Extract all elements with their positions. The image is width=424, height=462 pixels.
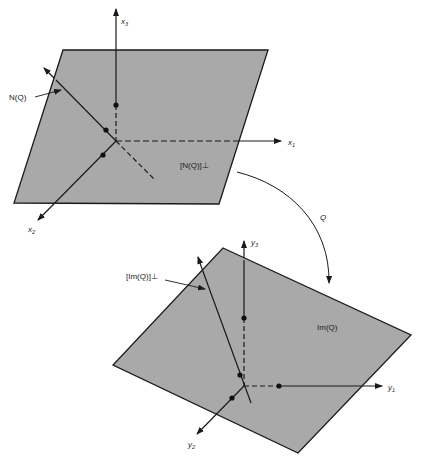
basis-point-null <box>103 127 108 132</box>
domain-space: N(Q) [N(Q)]⊥ x1 x2 x3 <box>9 9 295 235</box>
image-perp-line-outer <box>198 257 201 266</box>
linear-map-diagram: N(Q) [N(Q)]⊥ x1 x2 x3 Q [Im(Q)]⊥ Im(Q <box>0 0 424 462</box>
basis-point-perp <box>237 372 242 377</box>
y1-label: y1 <box>387 383 395 393</box>
orthogonal-complement-plane <box>14 50 268 204</box>
null-space-label: N(Q) <box>9 93 27 102</box>
image-perp-label: [Im(Q)]⊥ <box>126 272 158 281</box>
y2-label: y2 <box>187 440 195 450</box>
x3-label: x3 <box>120 17 129 27</box>
x1-label: x1 <box>287 138 295 148</box>
basis-point-y3 <box>241 315 246 320</box>
codomain-space: [Im(Q)]⊥ Im(Q) y1 y2 y3 <box>113 238 411 453</box>
image-plane-label: Im(Q) <box>317 323 338 332</box>
basis-point-y2 <box>229 395 234 400</box>
basis-point-x2 <box>100 152 105 157</box>
x2-label: x2 <box>27 225 35 235</box>
y3-label: y3 <box>250 238 259 248</box>
mapping-label: Q <box>320 213 326 222</box>
orthogonal-complement-label: [N(Q)]⊥ <box>180 161 209 170</box>
basis-point-x3 <box>113 102 118 107</box>
basis-point-y1 <box>276 383 281 388</box>
